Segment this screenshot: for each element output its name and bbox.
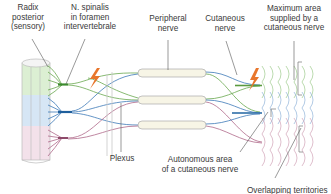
label-line: Peripheral	[143, 14, 193, 24]
label-cutaneous-nerve: Cutaneous nerve	[199, 14, 251, 33]
spinal-cord	[22, 59, 50, 163]
label-line: in foramen	[58, 13, 122, 23]
label-peripheral-nerve: Peripheral nerve	[143, 14, 193, 33]
label-maximum-area: Maximum area supplied by a cutaneous ner…	[257, 4, 331, 33]
label-n-spinalis: N. spinalis in foramen intervertebrale	[58, 3, 122, 32]
overlap-bracket	[299, 126, 303, 152]
skin-territories	[262, 66, 313, 166]
label-autonomous-area: Autonomous area of a cutaneous nerve	[155, 155, 245, 174]
label-overlapping-territories: Overlapping territories	[247, 186, 328, 194]
plexus-fibers	[68, 72, 138, 158]
lesion-lightning-icon-1	[90, 68, 100, 89]
label-line: of a cutaneous nerve	[155, 165, 245, 175]
label-line: Maximum area	[257, 4, 331, 14]
label-radix-posterior: Radix posterior (sensory)	[4, 3, 52, 32]
label-line: nerve	[143, 24, 193, 34]
label-line: (sensory)	[4, 22, 52, 32]
label-line: N. spinalis	[58, 3, 122, 13]
label-plexus: Plexus	[105, 154, 139, 164]
label-line: intervertebrale	[58, 22, 122, 32]
label-line: posterior	[4, 13, 52, 23]
label-line: Autonomous area	[155, 155, 245, 165]
label-line: nerve	[199, 24, 251, 34]
peripheral-nerves	[138, 69, 206, 129]
label-line: supplied by a	[257, 14, 331, 24]
label-line: Radix	[4, 3, 52, 13]
label-line: cutaneous nerve	[257, 23, 331, 33]
max-area-bracket	[298, 62, 302, 95]
label-line: Cutaneous	[199, 14, 251, 24]
